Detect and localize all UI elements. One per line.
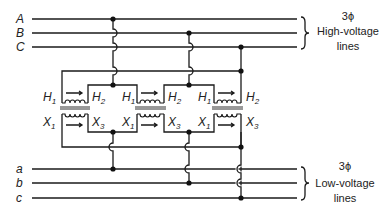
- terminal-X1: X1: [197, 115, 210, 131]
- primary-coil-icon: [62, 100, 88, 103]
- terminal-X3: X3: [167, 115, 181, 131]
- terminal-X1: X1: [42, 115, 55, 131]
- terminal-X3: X3: [91, 115, 105, 131]
- terminal-X1: X1: [121, 115, 134, 131]
- low-voltage-lines: a b c: [16, 162, 297, 205]
- label-c: c: [16, 191, 22, 205]
- tie-a: [109, 132, 113, 169]
- hv-brace-icon: [301, 17, 309, 49]
- hv-phase-symbol: 3ϕ: [342, 10, 354, 22]
- arrow-right-icon: [141, 91, 157, 95]
- primary-coil-icon: [214, 100, 241, 103]
- tie-b: [185, 132, 189, 183]
- label-A: A: [15, 12, 24, 26]
- terminal-H2: H2: [92, 90, 106, 106]
- lv-brace-icon: [301, 167, 309, 200]
- transformer-diagram: A B C a b c: [0, 0, 391, 216]
- terminal-H2: H2: [168, 90, 182, 106]
- label-B: B: [16, 26, 24, 40]
- transformer-2: H1 H2 X1 X3: [121, 90, 182, 131]
- terminal-H1: H1: [198, 90, 211, 106]
- tie-A: [113, 19, 117, 85]
- label-a: a: [16, 162, 23, 176]
- label-C: C: [16, 40, 25, 54]
- tie-B: [189, 33, 193, 85]
- arrow-right-icon: [66, 91, 82, 95]
- lv-caption-line2: lines: [334, 192, 357, 204]
- transformer-3: H1 H2 X1 X3: [197, 90, 260, 131]
- hv-caption-line1: High-voltage: [317, 25, 379, 37]
- arrow-right-icon: [141, 123, 157, 127]
- primary-coil-icon: [137, 100, 164, 103]
- arrow-right-icon: [218, 91, 234, 95]
- label-b: b: [16, 176, 23, 190]
- lv-caption-line1: Low-voltage: [315, 177, 374, 189]
- secondary-coil-icon: [137, 114, 164, 117]
- lv-bus: [88, 114, 241, 198]
- terminal-H1: H1: [43, 90, 56, 106]
- hv-bus: [88, 47, 241, 103]
- lv-return-wire: [62, 114, 243, 147]
- terminal-X3: X3: [245, 115, 259, 131]
- secondary-coil-icon: [214, 114, 241, 117]
- hv-caption-line2: lines: [337, 40, 360, 52]
- lv-phase-symbol: 3ϕ: [339, 160, 351, 172]
- terminal-H2: H2: [246, 90, 260, 106]
- arrow-right-icon: [218, 123, 234, 127]
- transformer-1: H1 H2 X1 X3: [42, 90, 106, 131]
- terminal-H1: H1: [122, 90, 135, 106]
- hv-return-wire: [62, 71, 243, 103]
- arrow-right-icon: [66, 123, 82, 127]
- secondary-coil-icon: [62, 114, 88, 117]
- high-voltage-lines: A B C: [15, 12, 297, 54]
